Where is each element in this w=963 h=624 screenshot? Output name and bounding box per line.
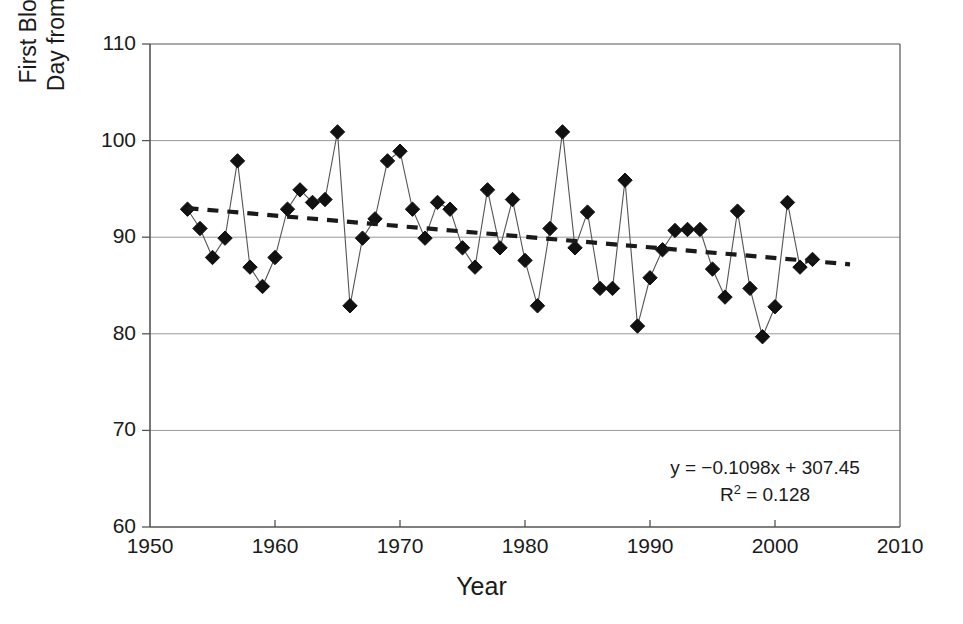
y-tick-label: 80 xyxy=(78,321,136,345)
y-axis-title-line1: First Blooming xyxy=(14,0,42,160)
y-tick-label: 70 xyxy=(78,417,136,441)
trendline-r-squared: R2 = 0.128 xyxy=(640,481,890,508)
y-tick-label: 90 xyxy=(78,224,136,248)
x-tick-label: 1950 xyxy=(105,534,195,558)
y-tick-label: 110 xyxy=(78,31,136,55)
x-tick-label: 2010 xyxy=(855,534,945,558)
y-axis-title: First Blooming Day from Jan. 1 xyxy=(14,0,70,160)
r-squared-prefix: R xyxy=(720,484,734,505)
x-tick-label: 1980 xyxy=(480,534,570,558)
x-axis-title: Year xyxy=(0,572,963,601)
x-tick-label: 1990 xyxy=(605,534,695,558)
y-axis-title-line2: Day from Jan. 1 xyxy=(42,0,70,160)
x-tick-label: 2000 xyxy=(730,534,820,558)
y-tick-label: 100 xyxy=(78,128,136,152)
y-axis-ticks xyxy=(142,44,150,527)
chart-container: 11010090807060 1950196019701980199020002… xyxy=(0,0,963,624)
x-tick-label: 1960 xyxy=(230,534,320,558)
r-squared-exponent: 2 xyxy=(734,482,741,497)
x-tick-label: 1970 xyxy=(355,534,445,558)
trendline-equation-annotation: y = −0.1098x + 307.45 R2 = 0.128 xyxy=(640,455,890,508)
trendline-equation: y = −0.1098x + 307.45 xyxy=(640,455,890,481)
chart-plot-svg xyxy=(0,0,963,624)
r-squared-value: = 0.128 xyxy=(741,484,810,505)
